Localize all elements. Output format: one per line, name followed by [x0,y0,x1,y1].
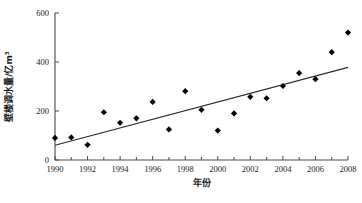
data-point [150,99,156,105]
x-tick-label: 1992 [79,164,96,174]
data-point [68,134,74,140]
y-tick-group: 0200400600 [36,8,59,165]
y-tick-label: 400 [36,57,49,67]
data-point [117,120,123,126]
data-point [182,88,188,94]
data-points-group [52,30,351,148]
axis-group [55,13,348,160]
x-tick-label: 1990 [47,164,64,174]
chart-canvas: 0200400600 19901992199419961998200020022… [0,0,362,203]
data-point [231,110,237,116]
data-point [264,95,270,101]
x-tick-label: 1998 [177,164,194,174]
x-tick-label: 2004 [274,164,292,174]
y-tick-label: 600 [36,8,49,18]
data-point [345,30,351,36]
x-tick-label: 2008 [340,164,357,174]
x-tick-label: 1996 [144,164,161,174]
data-point [133,115,139,121]
x-tick-label: 2006 [307,164,324,174]
data-point [198,107,204,113]
trend-line [55,67,348,145]
data-point [247,94,253,100]
x-tick-label: 2002 [242,164,259,174]
data-point [329,49,335,55]
data-point [166,126,172,132]
x-tick-group: 1990199219941996199820002002200420062008 [47,156,357,174]
data-point [84,142,90,148]
trend-line-group [55,67,348,145]
data-point [52,135,58,141]
x-tick-label: 2000 [209,164,226,174]
y-axis-title: 壁楼调水量/亿m³ [3,51,14,122]
scatter-chart: 0200400600 19901992199419961998200020022… [0,0,362,203]
y-tick-label: 200 [36,106,49,116]
x-axis-title: 年份 [193,177,212,188]
data-point [101,109,107,115]
x-tick-label: 1994 [112,164,130,174]
data-point [215,128,221,134]
data-point [296,70,302,76]
